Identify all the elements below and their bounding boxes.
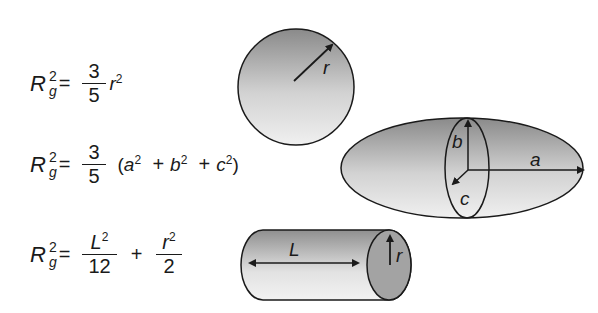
cylinder-radius-label: r [396,245,403,266]
ellipsoid-b-label: b [452,131,463,152]
cylinder-shape: L r [241,230,411,300]
shapes-diagram: r b a c L r [0,0,598,313]
cylinder-length-label: L [289,239,300,260]
sphere-radius-label: r [323,57,330,78]
ellipsoid-c-label: c [460,188,470,209]
ellipsoid-shape: b a c [341,118,583,218]
sphere-shape: r [238,29,354,145]
cylinder-end-cap [367,230,411,300]
ellipsoid-a-label: a [530,149,541,170]
